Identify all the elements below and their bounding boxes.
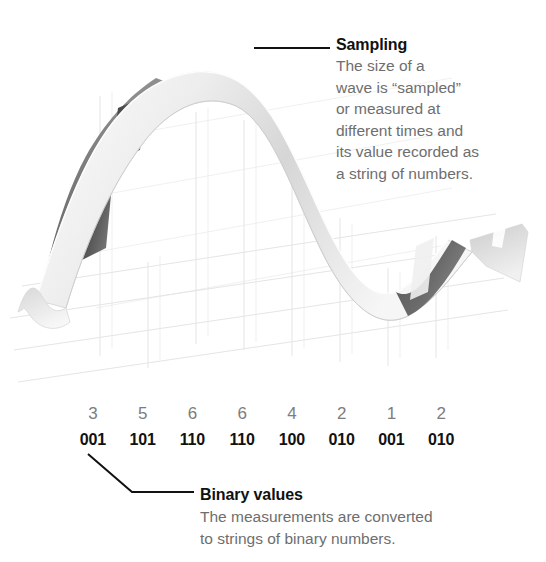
binary-callout-title: Binary values <box>200 486 530 504</box>
binary-value: 010 <box>317 430 367 450</box>
sampling-callout-title: Sampling <box>336 36 542 54</box>
sampling-callout-body: The size of a wave is “sampled” or measu… <box>336 55 542 184</box>
decimal-value: 6 <box>217 404 267 424</box>
binary-callout-body: The measurements are converted to string… <box>200 506 530 549</box>
binary-value: 010 <box>416 430 466 450</box>
binary-leader-line <box>86 452 196 502</box>
ribbon-notch-lower <box>78 184 112 262</box>
decimal-value: 4 <box>267 404 317 424</box>
ribbon-underside-left <box>40 78 182 300</box>
binary-values-row: 001 101 110 110 100 010 001 010 <box>68 430 466 450</box>
ribbon-underside-right <box>396 240 466 316</box>
ribbon-end-flare <box>470 224 528 282</box>
binary-values-callout: Binary values The measurements are conve… <box>200 486 530 549</box>
binary-value: 110 <box>217 430 267 450</box>
decimal-value: 3 <box>68 404 118 424</box>
binary-value: 100 <box>267 430 317 450</box>
decimal-value: 5 <box>118 404 168 424</box>
binary-value: 101 <box>118 430 168 450</box>
decimal-value: 2 <box>416 404 466 424</box>
sampling-callout: Sampling The size of a wave is “sampled”… <box>336 36 542 184</box>
sampling-diagram-figure: Sampling The size of a wave is “sampled”… <box>0 0 546 562</box>
ribbon-end-notch <box>492 226 506 248</box>
ribbon-notch-right <box>410 238 434 300</box>
ribbon-notch-upper <box>112 96 146 162</box>
sampling-leader-line <box>254 47 330 49</box>
decimal-value: 6 <box>168 404 218 424</box>
binary-value: 001 <box>68 430 118 450</box>
ribbon-left-tail <box>18 288 70 328</box>
decimal-value: 2 <box>317 404 367 424</box>
decimal-values-row: 3 5 6 6 4 2 1 2 <box>68 404 466 424</box>
binary-value: 001 <box>367 430 417 450</box>
decimal-value: 1 <box>367 404 417 424</box>
binary-value: 110 <box>168 430 218 450</box>
